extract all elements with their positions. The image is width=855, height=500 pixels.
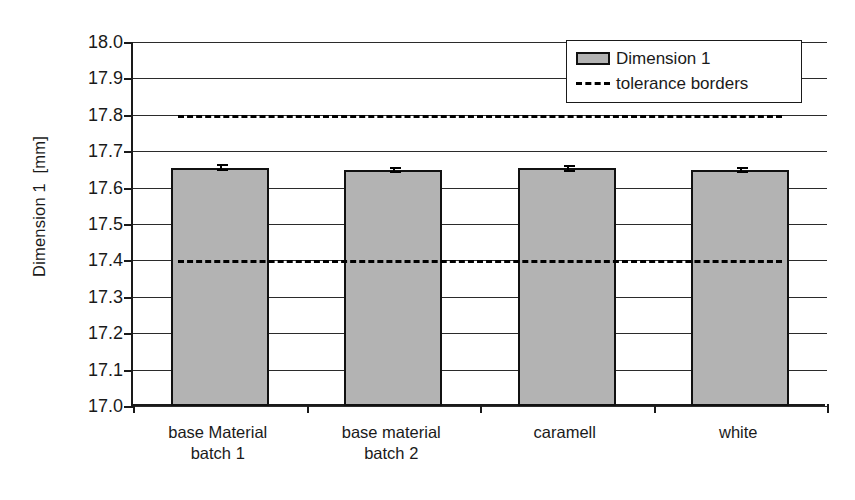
- bar: [691, 170, 789, 406]
- error-bar-cap-bottom: [564, 170, 575, 172]
- legend-item-tolerance-borders: tolerance borders: [576, 71, 792, 96]
- y-axis-tick-label: 17.4: [88, 251, 123, 269]
- error-bar: [740, 168, 742, 172]
- error-bar: [393, 168, 395, 172]
- y-axis-tick-label: 17.6: [88, 179, 123, 197]
- error-bar-cap-top: [564, 165, 575, 167]
- x-axis-tick: [307, 404, 309, 413]
- tolerance-border-line: [178, 115, 783, 118]
- y-axis-tick: [124, 333, 133, 335]
- y-axis-tick: [124, 115, 133, 117]
- chart-legend: Dimension 1 tolerance borders: [566, 40, 802, 103]
- gridline: [133, 151, 827, 152]
- x-axis-category-label: caramell: [478, 422, 652, 443]
- error-bar-cap-bottom: [390, 171, 401, 173]
- x-axis-tick: [480, 404, 482, 413]
- error-bar-cap-bottom: [737, 171, 748, 173]
- x-axis-tick: [827, 404, 829, 413]
- y-axis-tick-label: 17.0: [88, 397, 123, 415]
- error-bar-cap-top: [217, 164, 228, 166]
- error-bar: [220, 165, 222, 169]
- x-axis-category-label: base material batch 2: [305, 422, 479, 464]
- y-axis-tick-label: 17.1: [88, 361, 123, 379]
- error-bar-cap-bottom: [217, 169, 228, 171]
- y-axis-tick: [124, 370, 133, 372]
- y-axis-tick-label: 17.3: [88, 288, 123, 306]
- legend-label-dimension-1: Dimension 1: [616, 49, 711, 69]
- legend-item-dimension-1: Dimension 1: [576, 46, 792, 71]
- legend-label-tolerance-borders: tolerance borders: [616, 74, 748, 94]
- y-axis-tick-label: 17.9: [88, 69, 123, 87]
- y-axis-tick: [124, 260, 133, 262]
- bar: [344, 170, 442, 406]
- tolerance-border-line: [178, 260, 783, 263]
- y-axis-tick-label: 17.2: [88, 324, 123, 342]
- y-axis-tick: [124, 406, 133, 408]
- legend-dashed-line-icon: [576, 82, 610, 85]
- legend-swatch-icon: [576, 52, 610, 65]
- y-axis-title: Dimension 1 [mm]: [30, 42, 49, 372]
- error-bar-cap-top: [737, 167, 748, 169]
- error-bar-cap-top: [390, 167, 401, 169]
- error-bar: [567, 166, 569, 171]
- y-axis-tick: [124, 151, 133, 153]
- bar: [171, 168, 269, 406]
- y-axis-tick: [124, 188, 133, 190]
- x-axis-tick: [133, 404, 135, 413]
- y-axis-tick: [124, 42, 133, 44]
- y-axis-tick-label: 17.7: [88, 142, 123, 160]
- x-axis-tick: [654, 404, 656, 413]
- y-axis-tick: [124, 297, 133, 299]
- y-axis-tick-label: 18.0: [88, 33, 123, 51]
- y-axis-tick-label: 17.8: [88, 106, 123, 124]
- bar-chart: Dimension 1 [mm] 18.017.917.817.717.617.…: [0, 0, 855, 500]
- y-axis-tick: [124, 224, 133, 226]
- y-axis-tick: [124, 78, 133, 80]
- bar: [518, 168, 616, 406]
- y-axis-tick-label: 17.5: [88, 215, 123, 233]
- x-axis-category-label: white: [652, 422, 826, 443]
- x-axis-category-label: base Material batch 1: [131, 422, 305, 464]
